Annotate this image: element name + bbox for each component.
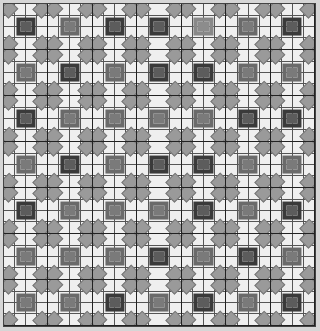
- diamond-shape: [211, 126, 227, 142]
- center-frame: [61, 247, 80, 266]
- center-frame: [16, 109, 35, 128]
- diamond-shape: [33, 218, 49, 234]
- center-frame: [283, 247, 302, 266]
- center-square: [287, 67, 298, 78]
- center-frame: [194, 247, 213, 266]
- center-square: [109, 67, 120, 78]
- center-frame: [149, 293, 168, 312]
- quilt-block: [271, 4, 315, 50]
- diamond-shape: [122, 218, 138, 234]
- diamond-shape: [77, 34, 93, 50]
- diamond-shape: [4, 80, 19, 96]
- quilt-block: [271, 142, 315, 188]
- diamond-shape: [93, 126, 108, 142]
- quilt-block: [93, 96, 137, 142]
- center-frame: [194, 109, 213, 128]
- diamond-shape: [299, 126, 315, 142]
- center-frame: [194, 293, 213, 312]
- center-frame: [105, 109, 124, 128]
- diamond-shape: [48, 218, 63, 234]
- quilt-block: [93, 50, 137, 96]
- quilt-block: [271, 50, 315, 96]
- diamond-shape: [166, 218, 182, 234]
- center-square: [20, 21, 31, 32]
- center-frame: [238, 247, 257, 266]
- diamond-shape: [211, 218, 227, 234]
- diamond-shape: [48, 126, 63, 142]
- center-frame: [149, 63, 168, 82]
- center-frame: [238, 155, 257, 174]
- diamond-shape: [271, 264, 286, 280]
- diamond-shape: [299, 80, 315, 96]
- center-frame: [283, 63, 302, 82]
- center-frame: [283, 293, 302, 312]
- center-frame: [105, 63, 124, 82]
- quilt-block: [48, 280, 92, 326]
- diamond-shape: [93, 218, 108, 234]
- diamond-shape: [48, 310, 63, 326]
- quilt-block: [4, 4, 48, 50]
- diamond-shape: [271, 34, 286, 50]
- center-frame: [238, 201, 257, 220]
- diamond-shape: [4, 264, 19, 280]
- center-frame: [105, 201, 124, 220]
- diamond-shape: [226, 218, 241, 234]
- center-frame: [61, 63, 80, 82]
- center-square: [242, 251, 253, 262]
- center-square: [65, 205, 76, 216]
- quilt-block: [226, 4, 270, 50]
- diamond-shape: [122, 172, 138, 188]
- quilt-block: [4, 280, 48, 326]
- center-frame: [283, 17, 302, 36]
- center-square: [109, 113, 120, 124]
- diamond-shape: [122, 310, 138, 326]
- diamond-shape: [299, 264, 315, 280]
- quilt-block: [182, 50, 226, 96]
- center-frame: [238, 63, 257, 82]
- quilt-block: [4, 188, 48, 234]
- quilt-block: [226, 142, 270, 188]
- diamond-shape: [33, 172, 49, 188]
- center-frame: [105, 247, 124, 266]
- center-square: [109, 297, 120, 308]
- diamond-shape: [226, 172, 241, 188]
- center-square: [242, 67, 253, 78]
- diamond-shape: [226, 80, 241, 96]
- quilt-block: [137, 142, 181, 188]
- quilt-block: [137, 188, 181, 234]
- diamond-shape: [137, 172, 152, 188]
- diamond-shape: [299, 310, 315, 326]
- quilt-block: [137, 96, 181, 142]
- quilt-block: [226, 280, 270, 326]
- quilt-block: [93, 234, 137, 280]
- diamond-shape: [77, 126, 93, 142]
- quilt-block: [137, 50, 181, 96]
- center-square: [153, 205, 164, 216]
- diamond-shape: [182, 310, 197, 326]
- diamond-shape: [48, 172, 63, 188]
- diamond-shape: [48, 264, 63, 280]
- center-square: [287, 205, 298, 216]
- quilt-block: [4, 142, 48, 188]
- center-square: [198, 67, 209, 78]
- center-frame: [149, 109, 168, 128]
- center-square: [198, 21, 209, 32]
- diamond-shape: [122, 80, 138, 96]
- quilt-block: [182, 4, 226, 50]
- quilt-block: [226, 50, 270, 96]
- quilt-block: [271, 280, 315, 326]
- center-square: [287, 113, 298, 124]
- diamond-shape: [33, 34, 49, 50]
- center-frame: [149, 247, 168, 266]
- diamond-shape: [299, 34, 315, 50]
- center-square: [242, 113, 253, 124]
- diamond-shape: [271, 310, 286, 326]
- diamond-shape: [77, 218, 93, 234]
- center-square: [153, 113, 164, 124]
- center-frame: [61, 155, 80, 174]
- diamond-shape: [271, 126, 286, 142]
- diamond-shape: [182, 80, 197, 96]
- diamond-shape: [226, 126, 241, 142]
- diamond-shape: [271, 218, 286, 234]
- quilt-block: [93, 142, 137, 188]
